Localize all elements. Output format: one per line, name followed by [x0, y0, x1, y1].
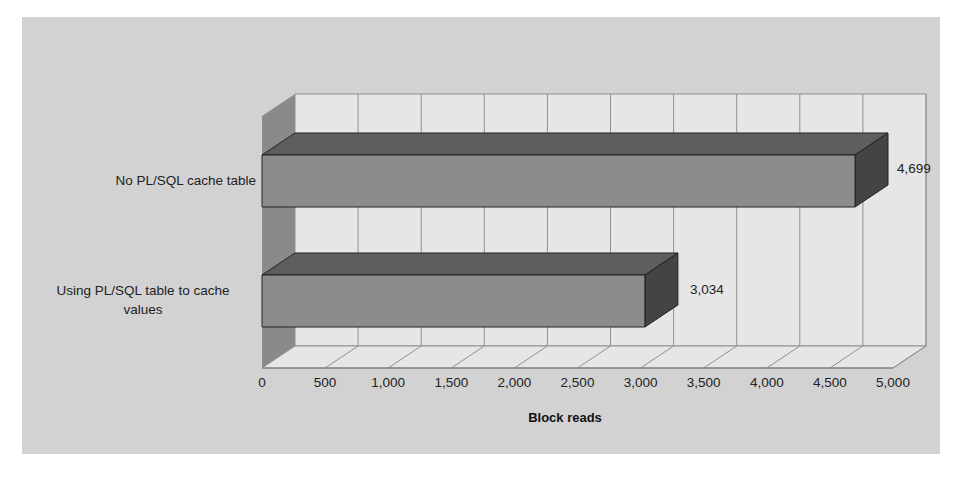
x-tick-label: 3,500: [687, 375, 721, 390]
x-tick-label: 1,000: [371, 375, 405, 390]
x-tick-label: 2,000: [497, 375, 531, 390]
category-label-no-cache: No PL/SQL cache table: [60, 171, 256, 190]
value-label-using-cache: 3,034: [690, 282, 724, 297]
chart-plot: [0, 0, 968, 480]
x-tick-label: 0: [258, 375, 266, 390]
category-text-line2: values: [30, 300, 256, 319]
category-text: No PL/SQL cache table: [115, 173, 256, 188]
category-label-using-cache: Using PL/SQL table to cache values: [30, 281, 256, 319]
x-tick-label: 4,000: [750, 375, 784, 390]
bar-using-cache-top: [262, 253, 678, 275]
x-tick-label: 5,000: [876, 375, 910, 390]
bar-using-cache-front: [262, 275, 645, 327]
value-label-no-cache: 4,699: [897, 161, 931, 176]
x-tick-label: 3,000: [624, 375, 658, 390]
x-tick-label: 1,500: [434, 375, 468, 390]
x-tick-label: 4,500: [813, 375, 847, 390]
bar-no-cache-front: [262, 155, 855, 207]
x-tick-label: 2,500: [561, 375, 595, 390]
category-text-line1: Using PL/SQL table to cache: [30, 281, 256, 300]
x-axis-title: Block reads: [528, 410, 602, 425]
x-tick-label: 500: [314, 375, 337, 390]
bar-no-cache-top: [262, 133, 888, 155]
